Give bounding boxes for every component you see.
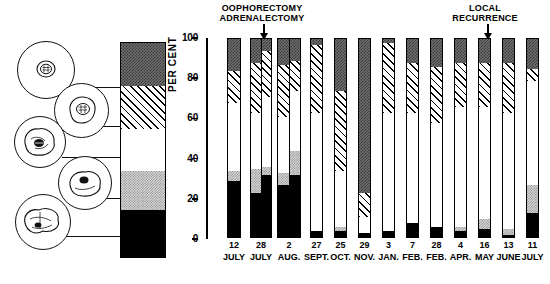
bar-segment-white [359,217,370,233]
legend-swatch-black [121,210,165,257]
bar-7-feb[interactable] [406,38,419,238]
bar-segment-dark [455,38,466,63]
y-tick-label-40: 40 [187,153,198,164]
bar-28-july[interactable] [250,38,272,238]
annotation-line-1: LOCAL [430,3,540,13]
bar-segment-light [228,171,240,181]
annotation-line-2: RECURRENCE [430,13,540,23]
bar-2-aug[interactable] [277,38,301,238]
bar-segment-hatch [359,193,370,217]
y-axis-title: PER CENT [167,37,178,92]
bar-27-sept[interactable] [310,38,323,238]
bar-segment-light [251,169,261,193]
bar-segment-dark [359,38,370,193]
bar-segment-black [289,175,300,237]
bar-segment-black [503,235,514,237]
bar-segment-white [289,91,300,151]
bar-segment-dark [311,38,322,45]
figure-root: OOPHORECTOMY ADRENALECTOMY LOCAL RECURRE… [0,0,550,284]
bar-half-right [289,39,300,237]
bar-segment-white [407,113,418,223]
bar-segment-hatch [278,65,289,117]
bar-half-right [261,39,271,237]
legend-swatch-light-gray [121,171,165,210]
legend-swatch-white [121,129,165,172]
bar-segment-black [527,213,538,237]
bar-segment-dark [251,38,261,63]
bar-segment-dark [431,38,442,67]
bar-13-june[interactable] [502,38,515,238]
bar-segment-dark [503,38,514,63]
bar-segment-hatch [479,63,490,107]
bar-segment-dark [228,38,240,71]
irregular-cell-dense-nucleus-icon [15,117,65,167]
bar-segment-black [261,175,271,237]
bar-segment-dark [289,38,300,61]
bar-segment-hatch [261,51,271,97]
bar-segment-light [289,151,300,175]
y-tick-label-60: 60 [187,112,198,123]
x-axis-labels: 12JULY28JULY2AUG.27SEPT.25OCT.29NOV.3JAN… [207,240,537,280]
cell-morphology-legend [0,24,180,274]
bar-segment-hatch [311,45,322,113]
bar-segment-hatch [503,63,514,113]
x-label-month: JULY [518,252,547,262]
bar-segment-dark [527,38,538,69]
bar-segment-black [431,227,442,237]
legend-swatch-dark-gray [121,43,165,86]
bar-segment-dark [278,38,289,65]
bar-segment-white [503,113,514,229]
bar-25-oct[interactable] [334,38,347,238]
y-tick-label-100: 100 [182,32,198,43]
bar-segment-hatch [228,71,240,103]
bar-segment-hatch [289,61,300,91]
plot-area [207,38,517,238]
bar-segment-hatch [407,63,418,113]
bar-segment-dark [261,38,271,51]
x-label-day: 11 [518,240,547,250]
bar-half-left [251,39,261,237]
bar-segment-hatch [383,43,394,113]
annotation-line-1: OOPHORECTOMY [192,3,332,13]
bar-segment-white [311,113,322,231]
bar-segment-white [261,97,271,167]
bar-12-july[interactable] [227,38,241,238]
bar-segment-light [261,167,271,175]
annotation-oophorectomy-adrenalectomy: OOPHORECTOMY ADRENALECTOMY [192,3,332,23]
bar-3-jan[interactable] [382,38,395,238]
bar-segment-hatch [455,63,466,107]
bar-16-may[interactable] [478,38,491,238]
bar-divider [289,39,290,237]
bar-half-left [278,39,289,237]
bar-segment-black [479,229,490,237]
bar-segment-light [503,229,514,235]
bar-segment-dark [335,38,346,91]
bar-29-nov[interactable] [358,38,371,238]
bar-segment-light [479,219,490,229]
cell-micrograph-5 [15,194,71,250]
bar-segment-hatch [527,69,538,81]
bar-segment-black [407,223,418,237]
leader-line-5 [64,236,122,237]
bar-segment-hatch [251,63,261,113]
bar-segment-black [335,231,346,237]
y-tick-label-20: 20 [187,193,198,204]
bar-4-apr[interactable] [454,38,467,238]
bar-segment-white [251,113,261,169]
y-tick-label-0: 0 [193,233,198,244]
bar-segment-light [527,185,538,213]
legend-swatch-hatched [121,86,165,129]
bar-segment-light [455,227,466,231]
bar-segment-dark [479,38,490,63]
amoeboid-cell-pyknotic-nucleus-icon [16,195,70,249]
bar-segment-white [228,103,240,171]
bar-segment-light [335,227,346,231]
x-label-12: 11JULY [518,240,547,262]
bar-segment-white [383,113,394,231]
bar-segment-white [431,123,442,227]
bar-segment-black [455,231,466,237]
bar-28-feb[interactable] [430,38,443,238]
bar-segment-light [278,173,289,185]
y-tick-label-80: 80 [187,72,198,83]
bar-11-july[interactable] [526,38,539,238]
